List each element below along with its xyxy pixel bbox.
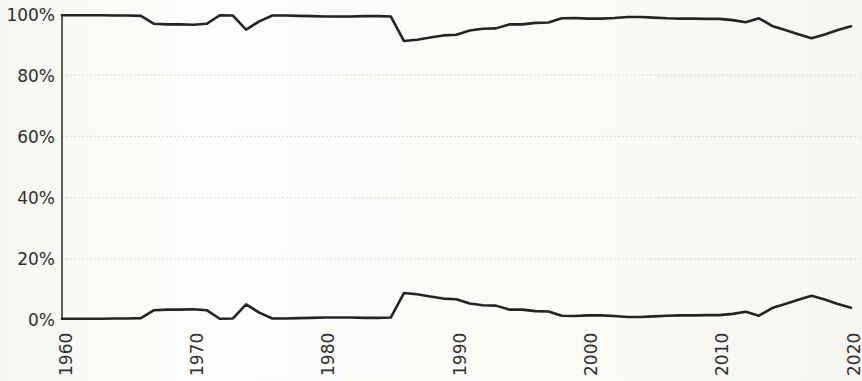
series-line-lower-series (62, 293, 851, 319)
plot-area (0, 0, 862, 381)
gridlines-group (62, 14, 862, 320)
data-series-group (62, 15, 851, 319)
chart-container: 100% 80% 60% 40% 20% 0% 1960 1970 1980 1… (0, 0, 862, 381)
series-line-upper-series (62, 15, 851, 41)
